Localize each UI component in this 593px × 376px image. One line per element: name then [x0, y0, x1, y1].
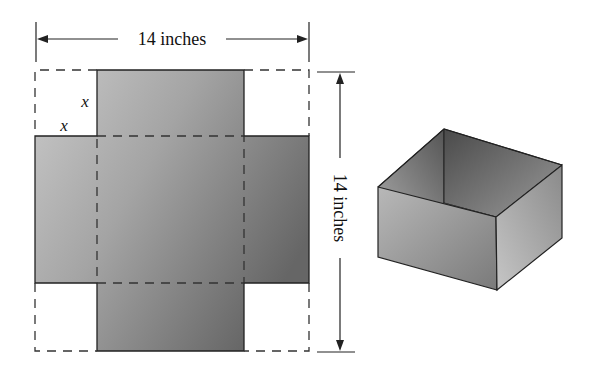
cut-corner-bottom-right — [244, 283, 309, 351]
height-label: 14 inches — [330, 174, 350, 242]
diagram: x x 14 inches 14 inches — [0, 0, 593, 376]
net-cross-shape — [35, 70, 309, 351]
arrow-up-icon — [336, 73, 344, 84]
width-label: 14 inches — [138, 29, 206, 49]
box-net: x x — [35, 70, 309, 351]
cut-corner-top-right — [244, 70, 309, 136]
cut-label-x-horizontal: x — [59, 116, 68, 135]
width-dimension: 14 inches — [36, 22, 309, 62]
arrow-left-icon — [37, 35, 48, 43]
height-dimension: 14 inches — [317, 72, 355, 352]
open-box — [378, 129, 562, 290]
arrow-down-icon — [336, 340, 344, 351]
arrow-right-icon — [297, 35, 308, 43]
cut-label-x-vertical: x — [80, 92, 89, 111]
cut-corner-bottom-left — [35, 283, 97, 351]
